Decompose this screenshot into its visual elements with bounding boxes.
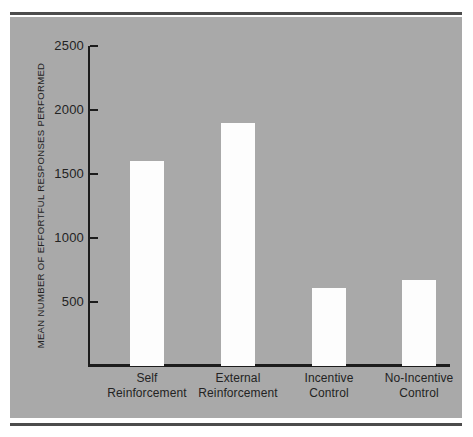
bar	[312, 288, 346, 366]
x-category-label-line1: No-Incentive	[364, 371, 473, 386]
bar	[221, 123, 255, 366]
x-category-label: No-IncentiveControl	[364, 371, 473, 401]
bar	[130, 161, 164, 366]
x-category-label-line2: Control	[364, 386, 473, 401]
bottom-rule	[10, 423, 462, 426]
bar	[402, 280, 436, 366]
figure-container: MEAN NUMBER OF EFFORTFUL RESPONSES PERFO…	[0, 0, 473, 437]
plot-area	[0, 0, 473, 366]
